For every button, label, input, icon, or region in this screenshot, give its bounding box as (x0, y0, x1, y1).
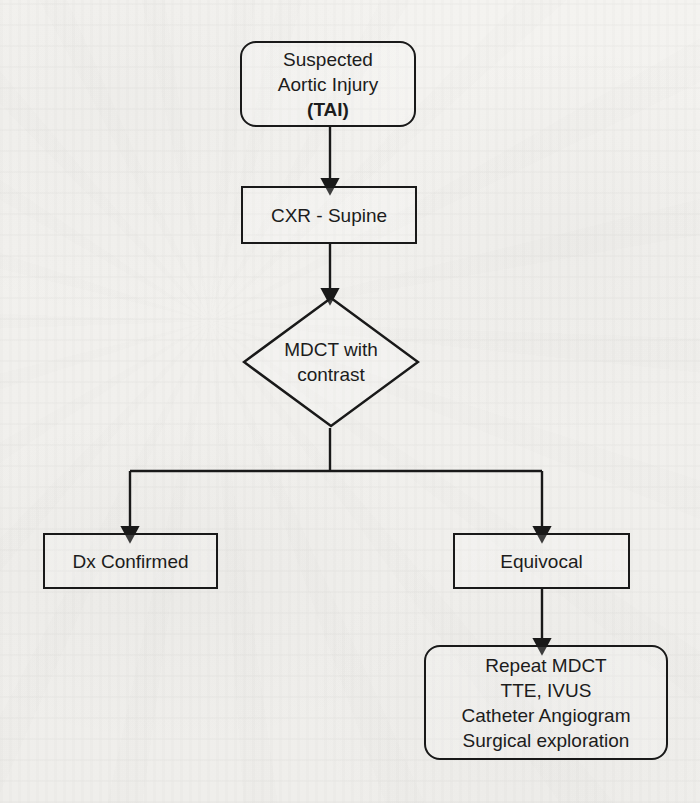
node-workup-line-3: Catheter Angiogram (462, 703, 631, 728)
node-mdct-line-2: contrast (284, 362, 378, 387)
node-cxr-supine-label: CXR - Supine (271, 203, 387, 228)
node-further-workup[interactable]: Repeat MDCT TTE, IVUS Catheter Angiogram… (424, 645, 668, 760)
node-cxr-supine[interactable]: CXR - Supine (241, 186, 417, 244)
node-suspected-line-2: Aortic Injury (278, 72, 378, 97)
node-suspected-line-1: Suspected (278, 47, 378, 72)
node-equivocal-label: Equivocal (500, 549, 582, 574)
node-dx-confirmed[interactable]: Dx Confirmed (43, 533, 218, 589)
node-mdct-with-contrast[interactable]: MDCT with contrast (242, 296, 420, 428)
node-mdct-line-1: MDCT with (284, 337, 378, 362)
node-dx-confirmed-label: Dx Confirmed (72, 549, 188, 574)
flowchart-canvas: Suspected Aortic Injury (TAI) CXR - Supi… (0, 0, 700, 803)
node-workup-line-4: Surgical exploration (462, 728, 631, 753)
node-equivocal[interactable]: Equivocal (453, 533, 630, 589)
node-workup-line-1: Repeat MDCT (462, 653, 631, 678)
node-suspected-line-3: (TAI) (278, 97, 378, 122)
node-suspected-aortic-injury[interactable]: Suspected Aortic Injury (TAI) (240, 41, 416, 127)
node-workup-line-2: TTE, IVUS (462, 678, 631, 703)
